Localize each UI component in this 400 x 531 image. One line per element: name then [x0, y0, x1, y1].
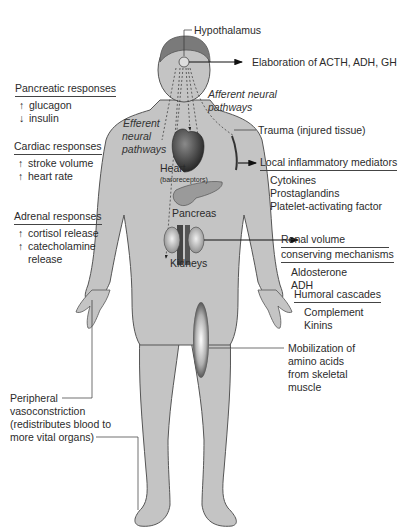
inflammatory-header: Local inflammatory mediators [260, 156, 397, 171]
adrenal-item: release [28, 253, 62, 265]
pancreatic-item: insulin [29, 112, 59, 124]
peripheral-line: Peripheral [10, 392, 111, 405]
muscle-line: amino acids [288, 355, 355, 368]
inflammatory-item: Cytokines [270, 174, 397, 187]
heart-label: Heart [160, 162, 186, 174]
inflammatory-mediators: Local inflammatory mediators Cytokines P… [260, 156, 397, 213]
hypothalamus-label: Hypothalamus [194, 24, 261, 37]
pancreas-label: Pancreas [172, 207, 216, 219]
baroreceptors-label: (baroreceptors) [160, 176, 208, 183]
up-arrow-icon: ↑ [18, 227, 28, 240]
pancreatic-header: Pancreatic responses [15, 82, 116, 97]
renal-header-line1: Renal volume [281, 233, 389, 248]
skeletal-muscle [193, 302, 209, 378]
cardiac-header: Cardiac responses [14, 140, 102, 155]
afferent-label-line1: Afferent neural [208, 88, 277, 101]
cardiac-responses: Cardiac responses ↑stroke volume ↑heart … [14, 140, 102, 183]
humoral-item: Kinins [304, 319, 381, 332]
adrenal-header: Adrenal responses [14, 210, 102, 225]
afferent-label-line2: pathways [208, 101, 252, 114]
peripheral-line: more vital organs) [10, 431, 111, 444]
cardiac-item: stroke volume [28, 157, 93, 169]
adrenal-item: cortisol release [28, 227, 99, 239]
kidneys-label: Kidneys [170, 257, 207, 269]
humoral-cascades: Humoral cascades Complement Kinins [294, 288, 381, 332]
efferent-label-line2: neural [122, 130, 151, 143]
efferent-label-line1: Efferent [123, 117, 160, 130]
renal-item: Aldosterone [291, 266, 394, 279]
inflammatory-item: Platelet-activating factor [270, 200, 397, 213]
muscle-line: muscle [288, 381, 355, 394]
up-arrow-icon: ↑ [18, 157, 28, 170]
peripheral-line: (redistributes blood to [10, 418, 111, 431]
cardiac-item: heart rate [28, 170, 73, 182]
up-arrow-icon: ↑ [18, 170, 28, 183]
peripheral-line: vasoconstriction [10, 405, 111, 418]
pancreatic-item: glucagon [29, 99, 72, 111]
humoral-item: Complement [304, 306, 381, 319]
adrenal-responses: Adrenal responses ↑cortisol release ↑cat… [14, 210, 102, 266]
peripheral-vasoconstriction-label: Peripheral vasoconstriction (redistribut… [10, 392, 111, 444]
trauma-label: Trauma (injured tissue) [258, 124, 366, 137]
up-arrow-icon: ↑ [19, 99, 29, 112]
adrenal-item: catecholamine [28, 240, 96, 252]
down-arrow-icon: ↓ [19, 112, 29, 125]
efferent-label-line3: pathways [122, 143, 166, 156]
hypothalamus-marker [179, 57, 189, 67]
elaboration-label: Elaboration of ACTH, ADH, GH [252, 56, 397, 69]
muscle-line: Mobilization of [288, 342, 355, 355]
up-arrow-icon: ↑ [18, 240, 28, 253]
muscle-mobilization-label: Mobilization of amino acids from skeleta… [288, 342, 355, 394]
inflammatory-item: Prostaglandins [270, 187, 397, 200]
humoral-header: Humoral cascades [294, 288, 381, 303]
muscle-line: from skeletal [288, 368, 355, 381]
renal-header-line2: conserving mechanisms [281, 248, 394, 263]
pancreatic-responses: Pancreatic responses ↑glucagon ↓insulin [15, 82, 116, 125]
renal-mechanisms: Renal volume conserving mechanisms Aldos… [281, 233, 394, 292]
